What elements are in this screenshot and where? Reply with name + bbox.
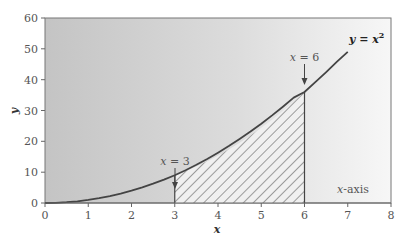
svg-text:8: 8 xyxy=(388,209,395,222)
svg-text:6: 6 xyxy=(301,209,308,222)
svg-text:5: 5 xyxy=(258,209,265,222)
svg-text:60: 60 xyxy=(24,12,38,25)
x-axis-ticks xyxy=(45,203,391,207)
y-axis-ticks xyxy=(41,18,45,203)
x-axis-note: x-axis xyxy=(337,183,369,196)
svg-text:20: 20 xyxy=(24,135,38,148)
svg-text:2: 2 xyxy=(128,209,135,222)
svg-text:30: 30 xyxy=(24,105,38,118)
svg-text:50: 50 xyxy=(24,43,38,56)
svg-text:0: 0 xyxy=(42,209,49,222)
annotation-x6: x = 6 xyxy=(290,51,319,64)
svg-text:7: 7 xyxy=(344,209,351,222)
svg-text:10: 10 xyxy=(24,166,38,179)
svg-text:3: 3 xyxy=(171,209,178,222)
y-axis-title: y xyxy=(8,106,21,115)
svg-text:4: 4 xyxy=(215,209,222,222)
x-tick-labels: 0 1 2 3 4 5 6 7 8 xyxy=(42,209,395,222)
x-axis-title: x xyxy=(213,223,221,236)
chart: 0 1 2 3 4 5 6 7 8 0 10 20 30 40 50 60 x … xyxy=(0,0,403,242)
y-tick-labels: 0 10 20 30 40 50 60 xyxy=(24,12,38,210)
svg-text:0: 0 xyxy=(31,197,38,210)
svg-text:40: 40 xyxy=(24,74,38,87)
annotation-x3: x = 3 xyxy=(160,155,189,168)
svg-text:1: 1 xyxy=(85,209,92,222)
